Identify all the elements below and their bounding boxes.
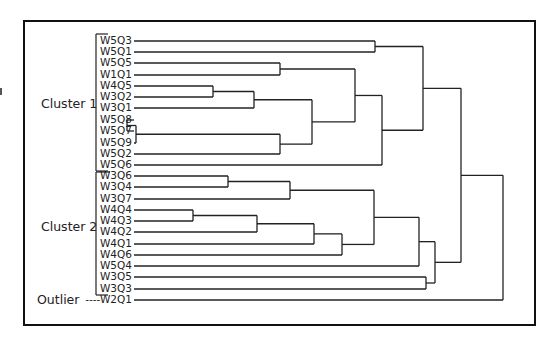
dendrogram-tree — [0, 0, 554, 345]
dendrogram-figure: Cluster 1 Cluster 2 Outlier W5Q3W5Q1W5Q5… — [0, 0, 554, 345]
